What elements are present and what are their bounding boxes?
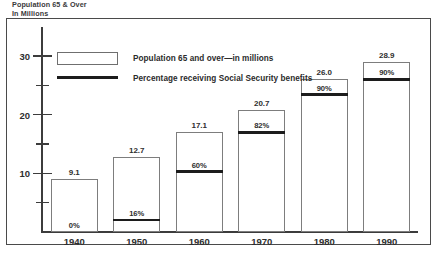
percent-line-1990 (363, 78, 410, 81)
y-tick-label-30: 30 (0, 50, 30, 61)
bar-1960 (176, 132, 223, 232)
x-tick-label-1990: 1990 (352, 236, 422, 247)
percent-line-1960 (176, 170, 223, 173)
x-tick-label-1940: 1940 (39, 236, 109, 247)
percent-label-1980: 90% (294, 84, 354, 93)
percent-label-1950: 16% (107, 209, 167, 218)
legend-marker-percentage-line (57, 76, 118, 79)
percent-line-1980 (301, 93, 348, 96)
percent-label-1990: 90% (357, 68, 417, 77)
x-tick-label-1960: 1960 (164, 236, 234, 247)
bar-value-label-1990: 28.9 (357, 51, 417, 60)
bar-1980 (301, 79, 348, 232)
legend-label-population: Population 65 and over—in millions (133, 54, 273, 63)
percent-line-1970 (238, 131, 285, 134)
percent-line-1950 (113, 219, 160, 222)
bar-value-label-1960: 17.1 (169, 121, 229, 130)
bar-1990 (363, 62, 410, 232)
legend-label-percentage: Percentage receiving Social Security ben… (133, 74, 312, 83)
percent-label-1960: 60% (169, 161, 229, 170)
x-tick-label-1980: 1980 (289, 236, 359, 247)
percent-label-1940: 0% (44, 221, 104, 230)
y-tick-major-30 (33, 55, 52, 57)
percent-label-1970: 82% (232, 121, 292, 130)
y-tick-minor-5 (36, 202, 49, 204)
chart-screenshot: Population 65 & Over In Millions 102030 … (0, 0, 443, 254)
y-tick-major-20 (33, 114, 52, 116)
bar-value-label-1970: 20.7 (232, 99, 292, 108)
y-tick-label-20: 20 (0, 109, 30, 120)
legend-marker-population-box (57, 52, 118, 65)
y-tick-minor-25 (36, 85, 49, 87)
bar-value-label-1950: 12.7 (107, 146, 167, 155)
y-tick-minor-15 (36, 143, 49, 145)
x-tick-label-1970: 1970 (227, 236, 297, 247)
x-tick-label-1950: 1950 (102, 236, 172, 247)
bar-value-label-1940: 9.1 (44, 168, 104, 177)
y-tick-label-10: 10 (0, 168, 30, 179)
plot-area: 102030 9.10%12.716%17.160%20.782%26.090%… (0, 0, 443, 254)
